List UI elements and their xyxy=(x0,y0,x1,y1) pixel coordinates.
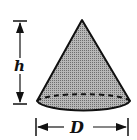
arrow-right-icon xyxy=(116,123,127,131)
cone-body xyxy=(37,20,130,110)
arrow-up-icon xyxy=(16,22,24,33)
cone-diagram: h D xyxy=(0,0,137,140)
diameter-label: D xyxy=(69,118,84,137)
arrow-left-icon xyxy=(37,123,48,131)
height-label: h xyxy=(14,57,25,75)
arrow-down-icon xyxy=(16,92,24,103)
